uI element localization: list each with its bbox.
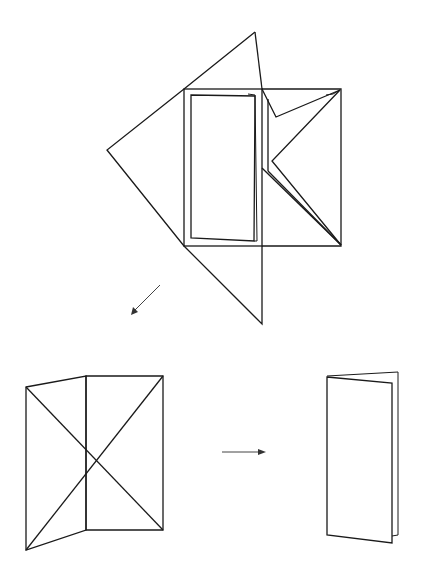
right-leaf: [86, 376, 163, 530]
folding-diagram: [0, 0, 426, 587]
inner-booklet-back: [248, 94, 257, 241]
left-leaf: [26, 376, 86, 550]
step-open-creased: [26, 376, 163, 550]
arrow-right: [222, 449, 266, 455]
crease-diagonal-1: [26, 387, 163, 530]
booklet-front-cover: [327, 377, 392, 543]
crease-diagonal-2: [26, 376, 163, 550]
step-finished-booklet: [327, 372, 398, 543]
inner-booklet-front: [191, 95, 255, 241]
middle-v-fold: [272, 90, 341, 245]
booklet-back-cover: [327, 372, 398, 536]
arrow-down-left: [131, 285, 160, 315]
arrowhead-icon: [258, 449, 266, 455]
top-flap-right-edge: [255, 32, 262, 89]
center-panel-outer: [184, 89, 262, 246]
step-fold-flaps: [107, 32, 341, 324]
lower-diagonal-fold-2: [268, 171, 341, 245]
